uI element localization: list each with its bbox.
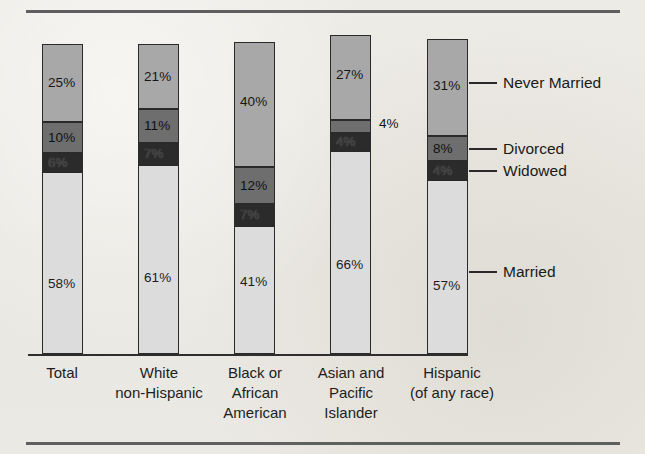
bar-hispanic: 31% 8% 4% 57% [427, 39, 468, 354]
segment-white-widowed: 7% [138, 143, 179, 165]
legend-label-married: Married [503, 264, 556, 280]
value-hispanic-married: 57% [428, 279, 460, 293]
segment-total-never-married: 25% [42, 44, 83, 122]
segment-asian-widowed: 4% [330, 133, 371, 151]
segment-black-married: 41% [234, 226, 275, 354]
legend-label-widowed: Widowed [503, 163, 567, 179]
segment-asian-never-married: 27% [330, 35, 371, 120]
x-label-hispanic-line-1: Hispanic [393, 363, 511, 383]
segment-white-never-married: 21% [138, 44, 179, 109]
segment-hispanic-never-married: 31% [427, 39, 468, 136]
segment-hispanic-married: 57% [427, 180, 468, 354]
segment-hispanic-divorced: 8% [427, 136, 468, 161]
x-label-black-african-american: Black or African American [205, 363, 305, 423]
bar-black-african-american: 40% 12% 7% 41% [234, 42, 275, 354]
x-label-total: Total [12, 363, 112, 383]
segment-asian-married: 66% [330, 151, 371, 354]
leader-line-divorced [469, 148, 497, 150]
value-total-divorced: 10% [43, 131, 75, 145]
value-black-widowed: 7% [235, 208, 260, 222]
x-label-black-line-1: Black or [205, 363, 305, 383]
x-label-asian-pacific-islander: Asian and Pacific Islander [301, 363, 401, 423]
value-asian-never-married: 27% [331, 68, 363, 82]
value-hispanic-widowed: 4% [428, 164, 453, 178]
bar-white-non-hispanic: 21% 11% 7% 61% [138, 44, 179, 354]
value-black-married: 41% [235, 275, 267, 289]
stacked-bar-chart: 25% 10% 6% 58% 21% 11% 7% 61% 40% 12 [0, 0, 645, 454]
bar-asian-pacific-islander: 27% 4% 66% [330, 35, 371, 354]
value-white-never-married: 21% [139, 70, 171, 84]
value-asian-widowed: 4% [331, 135, 356, 149]
bar-total: 25% 10% 6% 58% [42, 44, 83, 354]
legend-label-never-married: Never Married [503, 75, 601, 91]
x-label-white-line-2: non-Hispanic [98, 383, 220, 403]
value-asian-married: 66% [331, 258, 363, 272]
segment-total-married: 58% [42, 172, 83, 354]
value-white-married: 61% [139, 271, 171, 285]
x-label-hispanic-line-2: (of any race) [393, 383, 511, 403]
x-label-white-non-hispanic: White non-Hispanic [98, 363, 220, 403]
segment-black-divorced: 12% [234, 167, 275, 204]
segment-white-married: 61% [138, 165, 179, 354]
x-label-total-line-1: Total [12, 363, 112, 383]
segment-total-widowed: 6% [42, 153, 83, 172]
value-white-widowed: 7% [139, 147, 164, 161]
value-total-never-married: 25% [43, 76, 75, 90]
value-black-never-married: 40% [235, 95, 267, 109]
value-hispanic-never-married: 31% [428, 79, 460, 93]
value-asian-divorced-outside: 4% [379, 117, 399, 131]
legend-label-divorced: Divorced [503, 141, 564, 157]
segment-black-never-married: 40% [234, 42, 275, 167]
x-label-asian-line-2: Pacific [301, 383, 401, 403]
x-label-black-line-2: African [205, 383, 305, 403]
x-label-black-line-3: American [205, 403, 305, 423]
x-label-asian-line-3: Islander [301, 403, 401, 423]
segment-white-divorced: 11% [138, 109, 179, 143]
segment-total-divorced: 10% [42, 122, 83, 153]
value-black-divorced: 12% [235, 179, 267, 193]
leader-line-never-married [469, 82, 497, 84]
value-hispanic-divorced: 8% [428, 142, 453, 156]
x-label-hispanic: Hispanic (of any race) [393, 363, 511, 403]
x-label-asian-line-1: Asian and [301, 363, 401, 383]
x-axis-line [28, 354, 468, 356]
leader-line-widowed [469, 170, 497, 172]
segment-asian-divorced [330, 120, 371, 133]
value-total-married: 58% [43, 277, 75, 291]
value-total-widowed: 6% [43, 156, 68, 170]
leader-line-married [469, 271, 497, 273]
x-label-white-line-1: White [98, 363, 220, 383]
value-white-divorced: 11% [139, 119, 170, 133]
segment-black-widowed: 7% [234, 204, 275, 226]
segment-hispanic-widowed: 4% [427, 161, 468, 180]
